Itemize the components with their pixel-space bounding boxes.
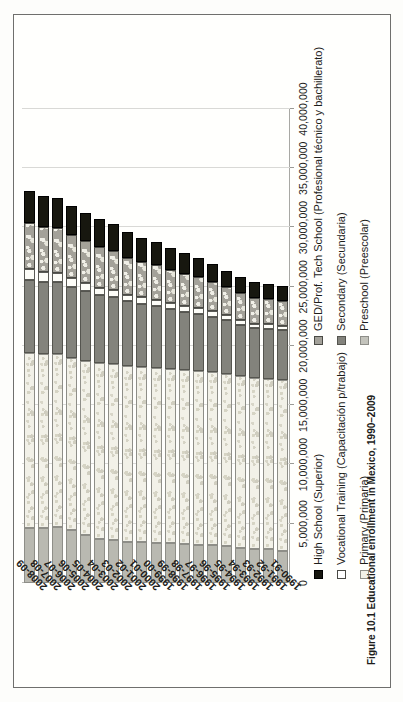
bar-segment-hs [165,248,176,270]
bar-segment-pri [165,369,176,543]
bar-segment-voc [94,288,105,295]
bar-segment-ged [108,251,119,290]
bar-segment-voc [24,269,35,279]
category-axis-line [289,109,290,583]
bar-segment-ged [179,274,190,306]
axis-tick [290,345,294,346]
figure: 05,000,00010,000,00015,000,00020,000,000… [16,27,388,675]
value-axis-tick-label: 40,000,000 [297,67,309,151]
legend-label: High School (Superior) [312,454,324,565]
bar-segment-pri [24,353,35,529]
bar-stack [122,232,133,583]
bar-segment-ged [94,247,105,288]
bar-segment-sec [179,312,190,370]
bar-stack [179,253,190,583]
bar-stack [24,191,35,583]
bar-stack [249,282,260,583]
bar-segment-pri [193,371,204,545]
bar-segment-voc [249,324,260,329]
bar-segment-hs [207,264,218,282]
bar-segment-voc [165,303,176,309]
bar-segment-ged [193,277,204,308]
legend-swatch-ged [314,336,323,345]
bar-segment-pri [221,374,232,547]
category-axis-label: 1993-94 [252,585,260,593]
bar-segment-sec [122,302,133,367]
bar-segment-sec [151,306,162,368]
bar-segment-ged [38,227,49,272]
bar-segment-voc [122,295,133,302]
legend-swatch-sec [337,336,346,345]
bar-segment-sec [38,282,49,354]
bar-segment-voc [151,300,162,306]
bar-segment-sec [249,328,260,378]
bar-segment-ged [52,228,63,272]
gridline [22,167,290,168]
bar-segment-hs [38,196,49,227]
bar-segment-ged [122,258,133,295]
bar-segment-hs [136,238,147,262]
legend-label: Vocational Training (Capacitación p/trab… [335,352,347,565]
bar-segment-pri [263,379,274,550]
bar-segment-hs [277,286,288,301]
category-axis-label: 1992-93 [266,585,274,593]
category-axis-label: 2001-02 [140,585,148,593]
bar-segment-pri [136,367,147,542]
bar-segment-pri [52,354,63,527]
bar-stack [165,248,176,583]
rotated-figure-container: 05,000,00010,000,00015,000,00020,000,000… [16,27,388,675]
axis-tick [290,464,294,465]
bar-segment-pri [94,364,105,539]
category-axis-label: 2003-04 [111,585,119,593]
bar-segment-ged [151,265,162,299]
bar-segment-hs [94,219,105,247]
bar-segment-sec [277,330,288,380]
bar-segment-hs [179,253,190,273]
bar-segment-pri [66,358,77,530]
bar-segment-voc [38,272,49,282]
bar-segment-hs [263,284,274,299]
legend-item: Secondary (Secundaria) [335,47,347,345]
bar-segment-pri [179,370,190,544]
bar-segment-hs [122,232,133,257]
bar-segment-sec [66,287,77,358]
bar-segment-sec [24,280,35,353]
bar-segment-voc [263,325,274,330]
bar-stack [207,264,218,583]
bar-segment-voc [221,315,232,320]
bar-stack [52,198,63,583]
bar-stack [66,206,77,583]
category-axis-label: 1994-95 [238,585,246,593]
bar-stack [277,286,288,583]
bar-segment-pri [151,368,162,543]
bar-segment-hs [193,258,204,277]
bar-segment-sec [52,282,63,354]
bar-segment-hs [66,206,77,235]
bar-stack [221,271,232,583]
bar-stack [235,277,246,583]
axis-tick [290,108,294,109]
bar-segment-voc [193,308,204,314]
legend-item: Vocational Training (Capacitación p/trab… [335,352,347,579]
legend-label: Secondary (Secundaria) [335,212,347,331]
bar-segment-pri [249,378,260,549]
bar-segment-hs [24,191,35,223]
bar-segment-sec [108,297,119,364]
bar-segment-hs [221,271,232,288]
bar-segment-pri [108,364,119,540]
bar-segment-sec [221,320,232,373]
bar-segment-voc [136,297,147,303]
bar-segment-pri [277,380,288,551]
bar-segment-voc [277,326,288,331]
bar-segment-ged [249,298,260,324]
axis-tick [290,523,294,524]
bar-segment-pri [80,361,91,535]
bar-segment-hs [249,282,260,298]
bar-segment-ged [221,287,232,315]
axis-tick [290,167,294,168]
axis-tick [290,286,294,287]
bar-segment-hs [151,242,162,265]
legend-item: GED/Prof. Tech School (Profesional técni… [312,47,324,345]
bar-segment-ged [80,241,91,283]
legend-item: High School (Superior) [312,352,324,579]
